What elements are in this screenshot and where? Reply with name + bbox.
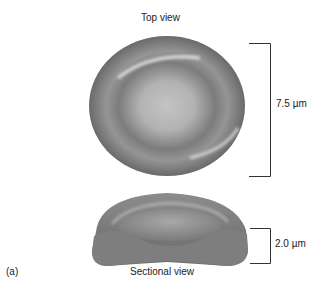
sectional-view-cell [92, 193, 248, 266]
sectional-view-dimension-bracket [250, 229, 271, 264]
panel-label: (a) [6, 266, 18, 277]
top-view-cell [89, 36, 245, 176]
sectional-view-dimension-label: 2.0 µm [275, 238, 306, 249]
sectional-view-title: Sectional view [130, 266, 194, 277]
top-view-dimension-bracket [249, 44, 271, 177]
top-view-dimension-label: 7.5 µm [276, 98, 307, 109]
